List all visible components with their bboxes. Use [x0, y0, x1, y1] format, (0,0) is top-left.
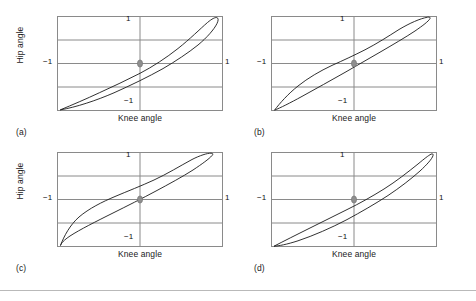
y-tick-top-a: 1 [126, 14, 130, 23]
panel-label-c: (c) [16, 263, 26, 273]
origin-marker-b [351, 60, 356, 67]
origin-marker-c [137, 196, 142, 203]
x-axis-label-c: Knee angle [57, 249, 223, 259]
plot-panel-b: Knee angle 1 −1 −1 1 (b) [238, 0, 476, 146]
y-tick-top-b: 1 [340, 14, 344, 23]
panel-label-a: (a) [16, 127, 27, 137]
x-tick-left-c: −1 [43, 193, 52, 202]
x-axis-label-b: Knee angle [271, 113, 437, 123]
plot-canvas-d [238, 140, 476, 286]
x-tick-right-c: 1 [225, 193, 229, 202]
plot-canvas-a [0, 0, 238, 146]
x-tick-left-d: −1 [257, 193, 266, 202]
panel-label-d: (d) [254, 263, 265, 273]
plot-panel-a: Hip angle Knee angle 1 −1 −1 1 (a) [0, 0, 238, 146]
x-tick-right-a: 1 [225, 57, 229, 66]
x-axis-label-d: Knee angle [271, 249, 437, 259]
y-tick-bottom-a: −1 [124, 96, 133, 105]
x-tick-left-a: −1 [43, 57, 52, 66]
origin-marker-a [137, 60, 142, 67]
panel-label-b: (b) [254, 127, 265, 137]
y-tick-top-d: 1 [340, 150, 344, 159]
footer-separator [0, 290, 476, 291]
plot-canvas-c [0, 140, 238, 286]
x-tick-right-b: 1 [439, 57, 443, 66]
x-axis-label-a: Knee angle [57, 113, 223, 123]
y-tick-bottom-d: −1 [338, 232, 347, 241]
figure-panel-grid: Hip angle Knee angle 1 −1 −1 1 (a) Knee … [0, 0, 476, 301]
y-axis-label-a: Hip angle [15, 5, 25, 85]
y-tick-bottom-c: −1 [124, 232, 133, 241]
y-tick-top-c: 1 [126, 150, 130, 159]
x-tick-left-b: −1 [257, 57, 266, 66]
y-tick-bottom-b: −1 [338, 96, 347, 105]
y-axis-label-c: Hip angle [15, 141, 25, 221]
origin-marker-d [351, 196, 356, 203]
plot-panel-d: Knee angle 1 −1 −1 1 (d) [238, 140, 476, 286]
plot-panel-c: Hip angle Knee angle 1 −1 −1 1 (c) [0, 140, 238, 286]
plot-canvas-b [238, 0, 476, 146]
x-tick-right-d: 1 [439, 193, 443, 202]
